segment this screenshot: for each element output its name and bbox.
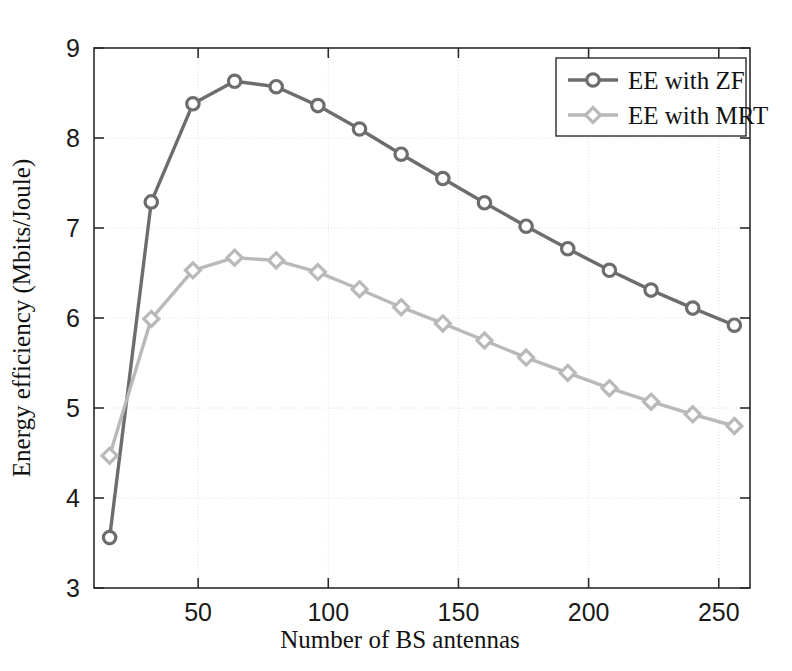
data-point-marker (728, 319, 740, 331)
y-tick-label: 3 (66, 574, 80, 602)
data-point-marker (562, 243, 574, 255)
data-point-marker (477, 333, 492, 348)
legend-label-zf: EE with ZF (628, 67, 745, 94)
x-tick-label: 200 (568, 598, 610, 626)
y-tick-label: 7 (66, 214, 80, 242)
legend-label-mrt: EE with MRT (628, 102, 768, 129)
data-point-marker (103, 531, 115, 543)
data-point-marker (187, 98, 199, 110)
data-point-marker (102, 448, 117, 463)
data-point-marker (687, 302, 699, 314)
data-point-marker (645, 284, 657, 296)
data-point-marker (228, 75, 240, 87)
data-point-marker (395, 148, 407, 160)
chart-legend[interactable]: EE with ZFEE with MRT (556, 58, 768, 136)
data-point-marker (437, 172, 449, 184)
x-tick-label: 100 (307, 598, 349, 626)
x-axis-title: Number of BS antennas (280, 626, 520, 653)
x-tick-label: 50 (184, 598, 212, 626)
data-point-marker (312, 99, 324, 111)
y-tick-label: 8 (66, 124, 80, 152)
data-point-marker (685, 407, 700, 422)
data-point-marker (644, 394, 659, 409)
x-tick-label: 150 (438, 598, 480, 626)
data-point-marker (520, 220, 532, 232)
data-point-marker (394, 300, 409, 315)
series-zf (103, 75, 740, 544)
data-point-marker (310, 265, 325, 280)
y-tick-label: 6 (66, 304, 80, 332)
y-tick-label: 9 (66, 34, 80, 62)
y-tick-label: 4 (66, 484, 80, 512)
data-point-marker (519, 350, 534, 365)
y-axis-title: Energy efficiency (Mbits/Joule) (8, 159, 36, 477)
data-point-marker (727, 419, 742, 434)
line-chart: 345678950100150200250 Number of BS anten… (0, 0, 792, 671)
data-point-marker (352, 282, 367, 297)
data-point-marker (227, 250, 242, 265)
data-point-marker (603, 264, 615, 276)
data-point-marker (560, 365, 575, 380)
x-tick-label: 250 (698, 598, 740, 626)
data-point-marker (145, 196, 157, 208)
data-point-marker (270, 81, 282, 93)
figure-page: 345678950100150200250 Number of BS anten… (0, 0, 792, 671)
chart-canvas: 345678950100150200250 Number of BS anten… (0, 0, 792, 671)
data-point-marker (353, 123, 365, 135)
series-line (110, 81, 735, 537)
series-line (110, 258, 735, 456)
data-point-marker (269, 253, 284, 268)
y-tick-label: 5 (66, 394, 80, 422)
data-point-marker (602, 381, 617, 396)
legend-sample-marker (587, 74, 599, 86)
data-point-marker (478, 197, 490, 209)
